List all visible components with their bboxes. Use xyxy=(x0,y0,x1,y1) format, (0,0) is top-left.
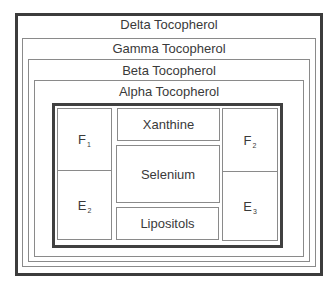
cell-f1-subscript: 1 xyxy=(87,141,91,148)
layer-label-alpha: Alpha Tocopherol xyxy=(34,84,304,100)
cell-f1: F1 xyxy=(57,108,112,171)
cell-e3-letter: E xyxy=(243,199,252,214)
cell-e2-letter: E xyxy=(78,198,87,213)
cell-e2-subscript: 2 xyxy=(87,207,91,214)
layer-label-beta: Beta Tocopherol xyxy=(28,63,310,79)
cell-f2: F2 xyxy=(222,108,278,172)
cell-f2-letter: F xyxy=(244,133,252,148)
cell-xanthine: Xanthine xyxy=(117,108,220,141)
cell-e2: E2 xyxy=(57,170,112,240)
cell-lipositols: Lipositols xyxy=(116,207,219,240)
cell-e3: E3 xyxy=(222,171,278,241)
cell-selenium: Selenium xyxy=(116,145,220,203)
cell-e3-subscript: 3 xyxy=(253,208,257,215)
layer-label-gamma: Gamma Tocopherol xyxy=(22,41,316,57)
layer-label-delta: Delta Tocopherol xyxy=(15,17,323,33)
cell-f2-subscript: 2 xyxy=(253,142,257,149)
cell-f1-letter: F xyxy=(78,132,86,147)
